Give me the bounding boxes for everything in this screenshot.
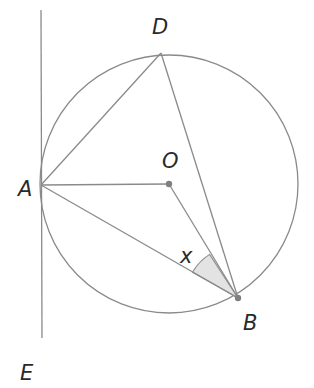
segment-AO <box>41 184 169 185</box>
label-O: O <box>162 149 179 173</box>
segment-AD <box>41 53 161 185</box>
label-A: A <box>16 177 32 201</box>
point-O <box>166 181 172 187</box>
circle-theorem-diagram: D O A x B E <box>0 0 314 388</box>
label-x: x <box>179 244 193 268</box>
label-B: B <box>243 311 257 335</box>
label-D: D <box>152 15 168 39</box>
segment-OB <box>169 184 238 298</box>
segment-DB <box>161 53 238 298</box>
tangent-line-AE <box>41 10 42 338</box>
label-E: E <box>20 361 34 385</box>
point-B <box>235 295 241 301</box>
